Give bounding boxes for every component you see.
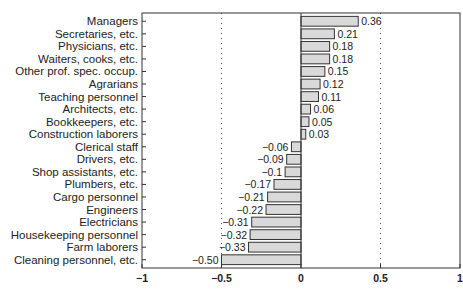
category-label: Drivers, etc.: [77, 153, 138, 165]
category-label: Waiters, cooks, etc.: [38, 53, 138, 65]
category-label: Secretaries, etc.: [55, 28, 138, 40]
bar: [301, 129, 306, 139]
bar: [266, 205, 301, 215]
value-label: −0.50: [192, 254, 219, 266]
category-label: Architects, etc.: [63, 103, 138, 115]
category-label: Clerical staff: [75, 141, 138, 153]
value-label: 0.03: [309, 128, 329, 140]
category-label: Shop assistants, etc.: [32, 166, 138, 178]
value-label: 0.06: [314, 103, 334, 115]
x-tick-label: −0.5: [211, 272, 232, 284]
category-label: Cargo personnel: [53, 191, 138, 203]
category-label: Agrarians: [89, 78, 138, 90]
x-tick-label: 1: [457, 272, 463, 284]
x-tick-label: −1: [136, 272, 148, 284]
value-label: 0.15: [328, 65, 348, 77]
value-label: 0.18: [333, 40, 353, 52]
value-label: 0.21: [337, 28, 357, 40]
bar: [249, 242, 301, 252]
category-label: Farm laborers: [66, 241, 138, 253]
value-label: 0.11: [321, 91, 341, 103]
value-label: −0.22: [236, 204, 263, 216]
category-label: Housekeeping personnel: [11, 229, 138, 241]
category-label: Teaching personnel: [38, 91, 138, 103]
value-label: 0.18: [333, 53, 353, 65]
category-label: Construction laborers: [29, 128, 138, 140]
bar: [301, 104, 311, 114]
bar: [301, 92, 318, 102]
value-label: −0.33: [219, 241, 246, 253]
bar: [222, 255, 302, 265]
bar: [285, 167, 301, 177]
value-label: −0.32: [221, 229, 248, 241]
bar: [301, 117, 309, 127]
x-tick-label: 0.5: [373, 272, 388, 284]
bar: [274, 180, 301, 190]
value-label: 0.36: [361, 15, 381, 27]
bar: [301, 79, 320, 89]
bar: [301, 54, 330, 64]
value-label: −0.31: [222, 216, 249, 228]
bar: [301, 41, 330, 51]
bar: [268, 192, 301, 202]
x-tick-label: 0: [298, 272, 304, 284]
category-label: Bookkeepers, etc.: [46, 116, 138, 128]
value-label: −0.06: [262, 141, 289, 153]
bar: [291, 142, 301, 152]
value-label: −0.09: [257, 153, 284, 165]
value-label: 0.12: [323, 78, 343, 90]
value-label: −0.17: [244, 178, 271, 190]
bar: [250, 230, 301, 240]
bar-chart: Managers0.36Secretaries, etc.0.21Physici…: [0, 0, 463, 289]
bar: [287, 154, 301, 164]
category-label: Plumbers, etc.: [65, 178, 139, 190]
bar: [301, 29, 334, 39]
bar: [301, 67, 325, 77]
category-label: Physicians, etc.: [58, 40, 138, 52]
category-label: Cleaning personnel, etc.: [14, 254, 138, 266]
category-label: Other prof. spec. occup.: [15, 65, 138, 77]
bar: [252, 217, 301, 227]
category-label: Engineers: [86, 204, 138, 216]
bar: [301, 16, 358, 26]
category-label: Electricians: [79, 216, 138, 228]
value-label: 0.05: [312, 116, 332, 128]
value-label: −0.21: [238, 191, 265, 203]
category-label: Managers: [87, 15, 138, 27]
value-label: −0.1: [261, 166, 282, 178]
